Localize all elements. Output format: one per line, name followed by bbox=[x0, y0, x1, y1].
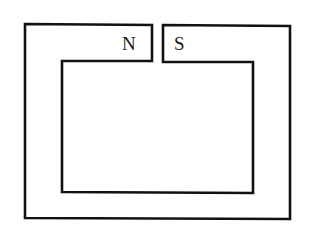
south-pole-label: S bbox=[174, 34, 185, 53]
magnet-diagram bbox=[0, 0, 312, 232]
north-pole-label: N bbox=[122, 34, 136, 53]
magnet-outline bbox=[25, 24, 290, 219]
